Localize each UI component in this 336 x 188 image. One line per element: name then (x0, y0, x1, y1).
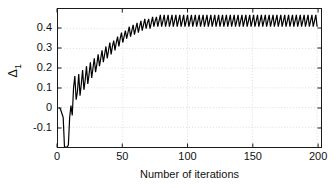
x-axis-label: Number of iterations (57, 168, 322, 180)
chart-figure: Δ1 -0.100.10.20.30.4 050100150200 Number… (0, 0, 336, 188)
x-axis-tick-label: 150 (244, 151, 262, 162)
x-axis-tick-label: 100 (178, 151, 196, 162)
x-axis-tick-label: 200 (309, 151, 327, 162)
x-axis-tick-label: 50 (116, 151, 128, 162)
x-axis-tick-labels: 050100150200 (0, 151, 336, 167)
x-axis-tick-label: 0 (54, 151, 60, 162)
